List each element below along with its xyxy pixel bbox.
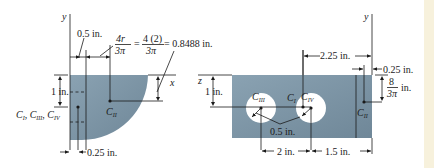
dim-1-5-in: 1.5 in.: [325, 146, 350, 157]
svg-text:3π: 3π: [386, 88, 398, 99]
dim-0-25-in-left: 0.25 in.: [87, 147, 117, 158]
leader-0-5: [79, 38, 84, 56]
dim-2-25-in: 2.25 in.: [320, 50, 350, 61]
centroid-diagram: y x CII 0.5 in. 4r 3π = 4 (2) 3π =: [0, 0, 434, 168]
x-axis-label: x: [169, 77, 175, 88]
leader-formula: [100, 46, 113, 56]
c-i-iii-iv-label: CI, CIII, CIV: [16, 109, 61, 121]
dim-8-over-3pi: 8 3π in.: [386, 76, 411, 99]
svg-text:3π: 3π: [114, 45, 126, 56]
svg-text:=: =: [134, 38, 140, 49]
dim-hole-radius: 0.5 in.: [270, 126, 295, 137]
dim-2-in: 2 in.: [277, 146, 295, 157]
left-figure: y x CII 0.5 in. 4r 3π = 4 (2) 3π =: [16, 11, 212, 158]
right-figure: y z 1 in. CI CIII CIV 0.5 in. CII: [197, 11, 413, 157]
formula: 4r 3π = 4 (2) 3π = 0.8488 in.: [114, 33, 212, 56]
centroid-dot-c1: [301, 105, 304, 108]
dim-1-in-left: 1 in.: [51, 86, 69, 97]
dim-0-25-in-right: 0.25 in.: [383, 64, 413, 75]
dim-0-5-in: 0.5 in.: [77, 28, 102, 39]
dim-1-in-right: 1 in.: [205, 86, 223, 97]
svg-text:in.: in.: [401, 82, 411, 93]
y-axis-label: y: [61, 11, 67, 22]
svg-text:8: 8: [389, 76, 394, 87]
centroid-dot-cii: [108, 99, 111, 102]
y-axis-label: y: [363, 11, 369, 22]
z-axis-label: z: [197, 75, 202, 86]
svg-text:4 (2): 4 (2): [143, 33, 162, 45]
centroid-dot-c1: [76, 105, 79, 108]
svg-text:3π: 3π: [145, 45, 157, 56]
svg-text:= 0.8488 in.: = 0.8488 in.: [164, 38, 212, 49]
svg-text:4r: 4r: [116, 33, 125, 44]
